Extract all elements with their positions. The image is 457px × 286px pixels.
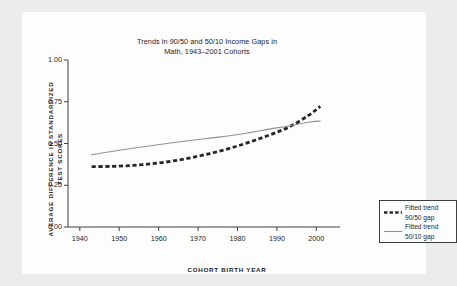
legend[interactable]: Fitted trend 90/50 gap Fitted trend 50/1… [379,200,457,243]
series-line-1 [92,121,321,155]
plot-area [22,12,426,274]
legend-label-90-50-line-1: Fitted trend [405,203,438,213]
legend-swatch-dashed [384,211,402,214]
axis-lines [64,60,340,231]
legend-label-90-50-line-2: 90/50 gap [405,213,438,223]
series-line-0 [92,106,321,166]
figure-panel: Trends in 90/50 and 50/10 Income Gaps in… [22,12,426,274]
series-lines [92,106,321,166]
legend-label-50-10-line-2: 50/10 gap [405,232,438,242]
legend-label-50-10-gap: Fitted trend 50/10 gap [405,222,438,241]
legend-label-50-10-line-1: Fitted trend [405,222,438,232]
legend-swatch-solid [384,230,402,233]
legend-item-90-50-gap[interactable]: Fitted trend 90/50 gap [384,203,456,222]
legend-label-90-50-gap: Fitted trend 90/50 gap [405,203,438,222]
legend-item-50-10-gap[interactable]: Fitted trend 50/10 gap [384,222,456,241]
